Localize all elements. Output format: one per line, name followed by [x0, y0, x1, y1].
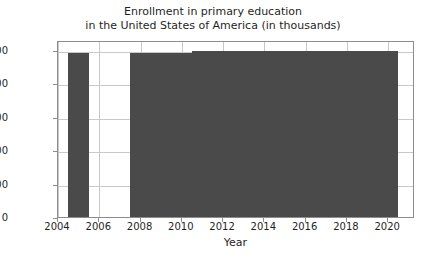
bar [337, 51, 358, 217]
y-tick-mark [53, 51, 57, 52]
y-tick-mark [53, 185, 57, 186]
chart-figure: Enrollment in primary education in the U… [0, 0, 426, 264]
x-tick-label: 2018 [333, 221, 358, 232]
y-tick-label: 10000 [0, 146, 8, 156]
bar [171, 53, 192, 217]
x-tick-label: 2012 [209, 221, 234, 232]
y-tick-label: 15000 [0, 113, 8, 123]
bar [68, 53, 89, 217]
bar [151, 53, 172, 217]
chart-title: Enrollment in primary education in the U… [0, 5, 426, 33]
x-tick-mark [98, 218, 99, 222]
y-tick-label: 5000 [0, 180, 8, 190]
y-tick-mark [53, 84, 57, 85]
y-tick-label: 25000 [0, 46, 8, 56]
x-tick-label: 2014 [251, 221, 276, 232]
bar [378, 51, 399, 217]
x-axis-label: Year [57, 236, 414, 249]
bar [275, 51, 296, 217]
x-tick-mark [305, 218, 306, 222]
bar [213, 51, 234, 217]
x-tick-mark [387, 218, 388, 222]
x-tick-mark [181, 218, 182, 222]
gridline-vertical [99, 42, 100, 217]
x-tick-mark [263, 218, 264, 222]
y-tick-label: 0 [2, 213, 8, 223]
x-tick-label: 2004 [44, 221, 69, 232]
x-tick-label: 2020 [374, 221, 399, 232]
bar [130, 53, 151, 217]
y-tick-mark [53, 151, 57, 152]
x-tick-label: 2008 [127, 221, 152, 232]
x-tick-mark [57, 218, 58, 222]
x-tick-mark [346, 218, 347, 222]
bar [295, 51, 316, 217]
bar [357, 51, 378, 217]
x-tick-mark [222, 218, 223, 222]
x-tick-label: 2006 [86, 221, 111, 232]
bar [233, 51, 254, 217]
bar [192, 51, 213, 217]
x-tick-mark [140, 218, 141, 222]
x-tick-label: 2016 [292, 221, 317, 232]
y-tick-label: 20000 [0, 79, 8, 89]
bar [316, 51, 337, 217]
y-tick-mark [53, 118, 57, 119]
plot-area [57, 41, 414, 218]
x-tick-label: 2010 [168, 221, 193, 232]
gridline-vertical [58, 42, 59, 217]
bar [254, 51, 275, 217]
